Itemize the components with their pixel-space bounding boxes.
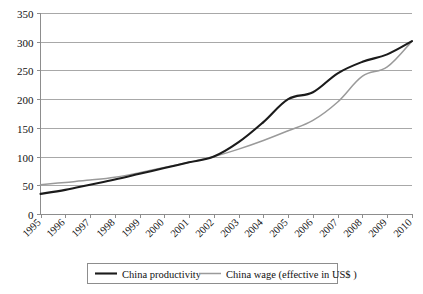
x-axis-tick-label: 2007 [317, 217, 340, 240]
chart-container: 050100150200250300350 199519961997199819… [0, 0, 423, 294]
y-axis-tick-label: 300 [17, 37, 34, 49]
x-axis-tick-label: 2010 [391, 217, 414, 240]
x-axis-tick-label: 2001 [168, 217, 191, 240]
legend-label-china-wage: China wage (effective in US$ ) [226, 269, 357, 281]
x-axis-tick-label: 2009 [366, 217, 389, 240]
line-chart: 050100150200250300350 199519961997199819… [0, 0, 423, 294]
series-line-china-productivity [41, 41, 413, 194]
x-axis-tick-label: 2002 [193, 217, 216, 240]
x-axis-tick-label: 2003 [218, 217, 241, 240]
legend: China productivity China wage (effective… [88, 264, 358, 284]
series-line-china-wage [41, 41, 413, 185]
y-axis-tick-label: 350 [17, 8, 34, 20]
x-axis-labels-group: 1995199619971998199920002001200220032004… [20, 216, 414, 239]
legend-label-china-productivity: China productivity [122, 269, 202, 280]
y-axis-labels-group: 050100150200250300350 [17, 8, 34, 221]
x-axis-tick-label: 2008 [341, 217, 364, 240]
y-axis-tick-label: 250 [17, 65, 34, 77]
x-axis-tick-label: 1998 [94, 217, 117, 240]
y-axis-tick-label: 100 [17, 152, 34, 164]
x-axis-tick-label: 2000 [143, 217, 166, 240]
y-axis-tick-label: 200 [17, 94, 34, 106]
x-axis-tick-label: 2004 [242, 216, 265, 239]
x-axis-tick-label: 1995 [20, 217, 43, 240]
gridlines-group [41, 14, 413, 186]
x-axis-tick-label: 1996 [44, 217, 67, 240]
x-axis-tick-label: 2005 [267, 217, 290, 240]
x-axis-tick-label: 1999 [119, 217, 142, 240]
y-axis-tick-label: 50 [23, 180, 35, 192]
y-axis-tick-label: 150 [17, 123, 34, 135]
x-axis-tick-label: 1997 [69, 217, 92, 240]
x-axis-tick-label: 2006 [292, 217, 315, 240]
